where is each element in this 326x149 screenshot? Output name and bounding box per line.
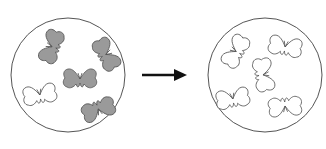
butterfly-icon xyxy=(268,96,303,118)
diagram xyxy=(0,0,326,149)
butterfly-icon xyxy=(37,27,66,65)
butterfly-icon xyxy=(267,34,303,58)
butterfly-icon xyxy=(219,32,252,70)
butterfly-icon xyxy=(251,57,275,93)
left-dish xyxy=(11,18,125,132)
diagram-canvas xyxy=(0,0,326,149)
butterfly-icon xyxy=(90,35,123,73)
butterfly-icon xyxy=(63,69,96,88)
butterfly-icon xyxy=(22,82,58,106)
butterfly-icon xyxy=(215,86,251,110)
right-dish xyxy=(208,18,322,132)
arrow-icon xyxy=(142,69,187,81)
butterfly-icon xyxy=(80,95,118,124)
